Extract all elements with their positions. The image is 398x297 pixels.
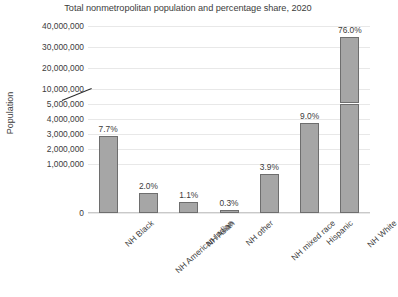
bar-data-label: 9.0% — [300, 111, 319, 121]
plot-area: 40,000,00030,000,00020,000,00010,000,000… — [88, 26, 370, 213]
bar-column[interactable]: 9.0% — [300, 26, 319, 213]
y-axis-tick-label: 2,000,000 — [47, 144, 84, 154]
bar-column[interactable]: 76.0% — [340, 26, 359, 213]
bar-column[interactable]: 3.9% — [260, 26, 279, 213]
y-axis-tick-label: 20,000,000 — [42, 63, 84, 73]
y-axis-tick-label: 40,000,000 — [42, 21, 84, 31]
y-axis-tick-label: 5,000,000 — [47, 99, 84, 109]
bar-data-label: 7.7% — [99, 124, 118, 134]
x-axis-tick-label: NH other — [244, 218, 276, 248]
bar-column[interactable]: 0.3% — [220, 26, 239, 213]
bar[interactable] — [139, 193, 158, 213]
bar-data-label: 76.0% — [338, 25, 362, 35]
bar-data-label: 2.0% — [139, 181, 158, 191]
y-axis-tick-label: 30,000,000 — [42, 42, 84, 52]
bar-segment-lower[interactable] — [340, 104, 359, 213]
x-axis-tick-label: NH Black — [123, 218, 156, 249]
y-axis-tick-label: 1,000,000 — [47, 159, 84, 169]
x-axis-tick-label: NH Asian — [204, 218, 237, 249]
bar-segment-upper[interactable] — [340, 37, 359, 104]
y-axis-tick-label: 3,000,000 — [47, 129, 84, 139]
bar[interactable] — [260, 174, 279, 213]
bar[interactable] — [300, 123, 319, 213]
y-axis-tick-label: 0 — [79, 208, 84, 218]
bar-column[interactable]: 7.7% — [99, 26, 118, 213]
y-axis-tick-label: 4,000,000 — [47, 114, 84, 124]
bar[interactable] — [179, 202, 198, 213]
chart-title: Total nonmetropolitan population and per… — [0, 3, 376, 13]
bar-column[interactable]: 2.0% — [139, 26, 158, 213]
bar-column[interactable]: 1.1% — [179, 26, 198, 213]
bar[interactable] — [220, 210, 239, 213]
x-axis-tick-label: NH White — [365, 218, 398, 249]
bar-data-label: 1.1% — [179, 190, 198, 200]
gridline — [88, 213, 370, 214]
y-axis-title: Population — [5, 68, 15, 158]
bar-data-label: 3.9% — [260, 162, 279, 172]
bar[interactable] — [99, 136, 118, 213]
bar-data-label: 0.3% — [219, 198, 238, 208]
